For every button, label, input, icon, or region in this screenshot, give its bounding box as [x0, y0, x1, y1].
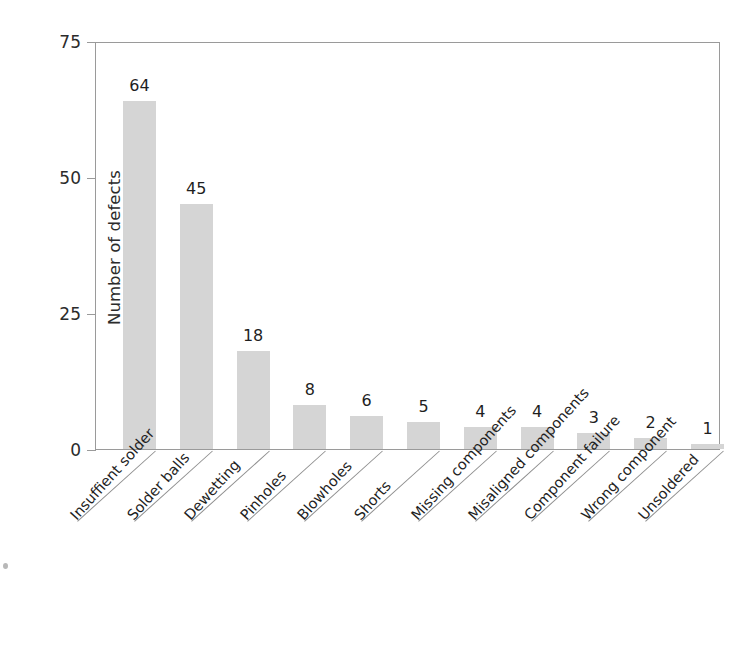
y-tick-mark	[87, 450, 96, 451]
category-label: Pinholes	[237, 468, 289, 523]
bar-value-label: 45	[186, 179, 206, 198]
bar-group: 1	[691, 41, 724, 449]
bar-group: 45	[180, 41, 213, 449]
bar-group: 64	[123, 41, 156, 449]
bar-group: 4	[464, 41, 497, 449]
bar-value-label: 3	[589, 408, 599, 427]
y-axis-title: Number of defects	[105, 118, 124, 378]
bar-group: 4	[521, 41, 554, 449]
bar	[293, 405, 326, 449]
category-label: Blowholes	[294, 458, 355, 523]
y-tick-mark	[87, 42, 96, 43]
bar-value-label: 4	[475, 402, 485, 421]
bar-value-label: 5	[418, 397, 428, 416]
bar-group: 6	[350, 41, 383, 449]
y-tick-label: 0	[70, 440, 81, 460]
bar-value-label: 18	[243, 326, 263, 345]
bar-group: 8	[293, 41, 326, 449]
bar	[123, 101, 156, 449]
bar	[691, 444, 724, 449]
bar-group: 2	[634, 41, 667, 449]
bar	[237, 351, 270, 449]
y-tick-label: 50	[59, 168, 81, 188]
bar	[350, 416, 383, 449]
y-tick-label: 25	[59, 304, 81, 324]
y-tick-mark	[87, 314, 96, 315]
y-tick-label: 75	[59, 32, 81, 52]
category-label: Dewetting	[181, 457, 243, 523]
bar-value-label: 6	[362, 391, 372, 410]
pareto-bar-chart-figure: Number of defects 0255075 64451886544321…	[0, 0, 749, 668]
bar-value-label: 8	[305, 380, 315, 399]
bar-group: 5	[407, 41, 440, 449]
bar	[407, 422, 440, 449]
category-label: Unsoldered	[635, 451, 702, 523]
y-tick-mark	[87, 178, 96, 179]
category-label: Shorts	[351, 478, 394, 523]
bar-value-label: 64	[129, 76, 149, 95]
bar	[180, 204, 213, 449]
scan-artifact	[3, 563, 8, 569]
bar-value-label: 4	[532, 402, 542, 421]
plot-area: Number of defects 0255075 64451886544321	[95, 42, 720, 450]
bar-group: 18	[237, 41, 270, 449]
bar-value-label: 1	[702, 419, 712, 438]
